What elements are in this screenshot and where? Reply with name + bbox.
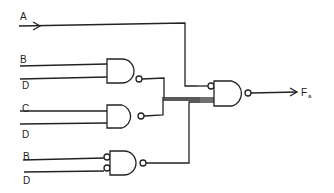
input-label-a: A: [20, 11, 27, 22]
inversion-bubble: [140, 160, 146, 166]
inversion-bubble: [136, 76, 142, 82]
input-label-d2: D: [22, 129, 29, 140]
inversion-bubble: [138, 113, 144, 119]
inversion-bubble: [104, 154, 110, 160]
nand-gate-2: [20, 97, 200, 128]
inversion-bubble: [208, 83, 214, 89]
nand-gate-1: [20, 59, 200, 98]
input-label-d3: D: [23, 175, 30, 186]
inversion-bubble: [104, 165, 110, 171]
circuit-svg: A B D C D B D: [0, 0, 334, 193]
input-label-c: C: [22, 103, 29, 114]
input-label-d1: D: [22, 80, 29, 91]
inversion-bubble: [245, 90, 251, 96]
output-label: F: [301, 87, 307, 98]
output-subscript: a: [308, 93, 312, 99]
nand-gate-final: [197, 81, 297, 106]
logic-circuit-diagram: A B D C D B D: [0, 0, 334, 193]
input-label-b1: B: [20, 54, 27, 65]
